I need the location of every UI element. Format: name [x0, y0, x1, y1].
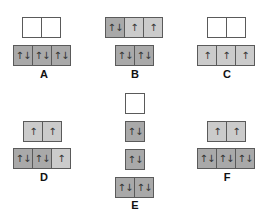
orbital-row: ↑↓↑↓↑ [13, 148, 71, 169]
diagram-label: C [217, 68, 237, 80]
paired-electron-box: ↑↓ [13, 148, 33, 169]
orbital-row [207, 17, 246, 38]
orbital-row [125, 93, 145, 114]
paired-electron-box: ↑↓ [125, 121, 145, 142]
unpaired-electron-box: ↑ [23, 121, 43, 142]
unpaired-electron-box: ↑ [143, 17, 163, 38]
unpaired-electron-box: ↑ [235, 45, 255, 66]
orbital-row: ↑↓↑↓ [115, 177, 154, 198]
unpaired-electron-box: ↑ [42, 121, 62, 142]
paired-electron-box: ↑↓ [13, 45, 33, 66]
paired-electron-box: ↑↓ [235, 148, 255, 169]
paired-electron-box: ↑↓ [134, 45, 154, 66]
empty-orbital-box [22, 17, 42, 38]
orbital-row: ↑↓↑↓ [115, 45, 154, 66]
orbital-row: ↑↑↑ [197, 45, 255, 66]
diagram-label: B [125, 68, 145, 80]
paired-electron-box: ↑↓ [197, 148, 217, 169]
paired-electron-box: ↑↓ [51, 45, 71, 66]
diagram-label: F [217, 171, 237, 183]
orbital-row: ↑↓ [125, 149, 145, 170]
orbital-row: ↑↑ [207, 121, 246, 142]
paired-electron-box: ↑↓ [32, 45, 52, 66]
empty-orbital-box [207, 17, 227, 38]
paired-electron-box: ↑↓ [125, 149, 145, 170]
paired-electron-box: ↑↓ [105, 17, 125, 38]
diagram-label: E [125, 199, 145, 211]
unpaired-electron-box: ↑ [197, 45, 217, 66]
unpaired-electron-box: ↑ [51, 148, 71, 169]
orbital-row [22, 17, 61, 38]
orbital-row: ↑↓↑↓↑↓ [197, 148, 255, 169]
paired-electron-box: ↑↓ [134, 177, 154, 198]
diagram-label: D [34, 171, 54, 183]
orbital-row: ↑↓↑↓↑↓ [13, 45, 71, 66]
empty-orbital-box [226, 17, 246, 38]
unpaired-electron-box: ↑ [216, 45, 236, 66]
empty-orbital-box [125, 93, 145, 114]
diagram-label: A [34, 68, 54, 80]
orbital-row: ↑↑ [23, 121, 62, 142]
paired-electron-box: ↑↓ [216, 148, 236, 169]
unpaired-electron-box: ↑ [124, 17, 144, 38]
unpaired-electron-box: ↑ [207, 121, 227, 142]
paired-electron-box: ↑↓ [115, 177, 135, 198]
orbital-row: ↑↓ [125, 121, 145, 142]
unpaired-electron-box: ↑ [226, 121, 246, 142]
paired-electron-box: ↑↓ [32, 148, 52, 169]
paired-electron-box: ↑↓ [115, 45, 135, 66]
orbital-row: ↑↓↑↑ [105, 17, 163, 38]
empty-orbital-box [41, 17, 61, 38]
